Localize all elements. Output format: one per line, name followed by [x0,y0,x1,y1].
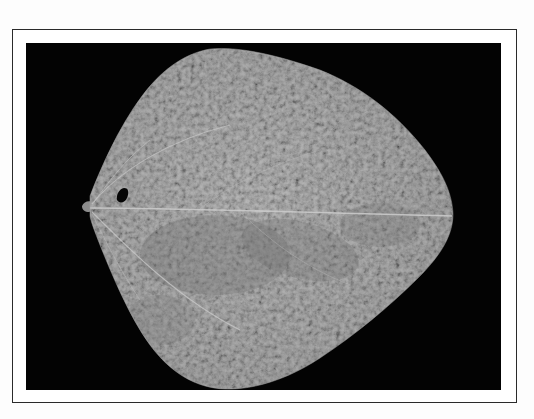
figure-canvas [0,0,534,419]
leaf-blade [80,43,460,390]
leaf-illustration [26,43,501,390]
leaf-photograph [26,43,501,390]
